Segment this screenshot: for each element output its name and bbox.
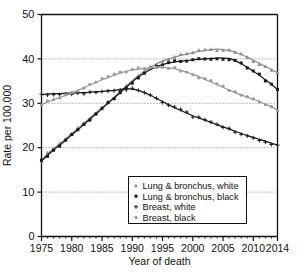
legend-label-2: Breast, white (143, 202, 196, 212)
data-point-1-33 (240, 61, 243, 64)
data-point-1-38 (270, 83, 273, 86)
data-point-3-39 (276, 109, 279, 112)
data-point-2-39 (276, 143, 280, 147)
data-point-2-12 (112, 89, 116, 93)
x-tick-label-1990: 1990 (121, 242, 145, 254)
data-point-3-36 (258, 100, 261, 103)
data-point-3-35 (252, 97, 255, 100)
data-point-1-9 (94, 112, 97, 115)
data-point-3-14 (125, 70, 128, 73)
data-point-1-5 (70, 133, 73, 136)
series-line-2 (42, 89, 278, 145)
x-tick-label-2005: 2005 (211, 242, 235, 254)
data-point-2-17 (142, 91, 146, 95)
data-point-1-11 (107, 101, 110, 104)
data-point-3-0 (40, 103, 43, 106)
data-point-3-7 (82, 87, 85, 90)
data-point-3-33 (240, 94, 243, 97)
data-point-3-1 (46, 99, 49, 102)
data-point-1-31 (228, 58, 231, 61)
y-tick-label-40: 40 (22, 53, 34, 65)
x-tick-label-1995: 1995 (151, 242, 175, 254)
data-point-1-23 (179, 60, 182, 63)
data-point-1-10 (101, 107, 104, 110)
data-point-3-23 (179, 70, 182, 73)
data-point-3-12 (113, 72, 116, 75)
data-point-1-8 (88, 119, 91, 122)
data-point-3-34 (246, 95, 249, 98)
data-point-3-13 (119, 70, 122, 73)
data-point-1-6 (76, 128, 79, 131)
data-point-1-0 (40, 159, 43, 162)
x-axis-title: Year of death (128, 255, 190, 267)
legend-marker-3 (134, 216, 137, 219)
data-point-3-17 (143, 67, 146, 70)
data-point-1-4 (64, 139, 67, 142)
series-line-1 (42, 58, 278, 161)
y-tick-label-30: 30 (22, 97, 34, 109)
data-point-2-11 (106, 89, 110, 93)
chart-container: 0102030405019751980198519901995200020052… (0, 0, 299, 275)
legend-label-3: Breast, black (143, 213, 197, 223)
data-point-3-20 (161, 66, 164, 69)
data-point-1-2 (52, 149, 55, 152)
x-tick-label-2014: 2014 (266, 242, 290, 254)
data-point-1-35 (252, 69, 255, 72)
data-point-1-30 (222, 58, 225, 61)
data-point-3-29 (215, 82, 218, 85)
data-point-3-37 (264, 103, 267, 106)
data-point-1-16 (137, 76, 140, 79)
data-point-3-27 (203, 77, 206, 80)
data-point-1-21 (167, 61, 170, 64)
data-point-3-16 (137, 66, 140, 69)
data-point-1-36 (258, 73, 261, 76)
data-point-3-21 (167, 67, 170, 70)
data-point-3-30 (221, 84, 224, 87)
data-point-1-27 (203, 57, 206, 60)
data-point-3-22 (173, 66, 176, 69)
data-point-3-8 (88, 83, 91, 86)
data-point-1-34 (246, 66, 249, 69)
data-point-1-39 (276, 88, 279, 91)
data-point-3-2 (52, 98, 55, 101)
data-point-3-24 (185, 71, 188, 74)
data-point-3-28 (209, 79, 212, 82)
data-point-1-1 (46, 155, 49, 158)
data-point-1-24 (185, 60, 188, 63)
data-point-1-32 (234, 59, 237, 62)
data-point-3-18 (149, 66, 152, 69)
data-point-2-16 (136, 88, 140, 92)
y-tick-label-0: 0 (28, 230, 34, 242)
x-tick-label-2000: 2000 (181, 242, 205, 254)
y-tick-label-50: 50 (22, 8, 34, 20)
y-tick-label-20: 20 (22, 141, 34, 153)
data-point-3-19 (155, 66, 158, 69)
data-point-2-10 (100, 90, 104, 94)
data-point-3-38 (270, 105, 273, 108)
data-point-1-12 (113, 97, 116, 100)
x-tick-label-2010: 2010 (242, 242, 266, 254)
data-point-3-31 (227, 89, 230, 92)
y-axis-title: Rate per 100,000 (1, 85, 13, 166)
data-point-1-28 (209, 58, 212, 61)
data-point-3-6 (76, 89, 79, 92)
data-point-3-25 (191, 73, 194, 76)
legend-label-0: Lung & bronchus, white (143, 181, 239, 191)
data-point-2-8 (88, 90, 92, 94)
x-tick-label-1980: 1980 (60, 242, 84, 254)
data-point-1-3 (58, 145, 61, 148)
data-point-3-10 (100, 77, 103, 80)
mortality-rate-line-chart: 0102030405019751980198519901995200020052… (0, 0, 299, 275)
data-point-1-15 (131, 82, 134, 85)
x-tick-label-1985: 1985 (90, 242, 114, 254)
data-point-0-23 (179, 52, 183, 56)
data-point-3-26 (197, 76, 200, 79)
data-point-1-17 (143, 72, 146, 75)
data-point-3-32 (234, 90, 237, 93)
data-point-0-26 (197, 48, 201, 52)
data-point-1-29 (215, 57, 218, 60)
data-point-3-9 (94, 80, 97, 83)
data-point-1-22 (173, 59, 176, 62)
data-point-3-3 (58, 96, 61, 99)
data-point-3-11 (106, 75, 109, 78)
